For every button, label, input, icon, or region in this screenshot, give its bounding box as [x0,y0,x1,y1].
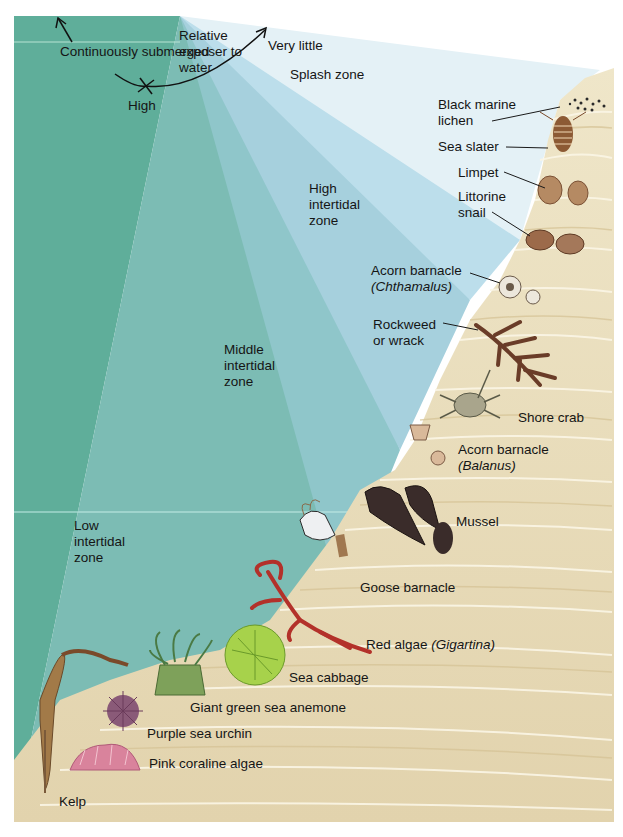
label-red-algae: Red algae (Gigartina) [366,635,495,653]
label-black-marine-lichen: Black marine lichen [438,97,516,129]
label-splash-zone: Splash zone [290,67,364,83]
label-limpet: Limpet [458,165,499,181]
scientific-name: (Gigartina) [431,637,495,652]
label-shore-crab: Shore crab [518,410,584,426]
label-giant-green-sea-anemone: Giant green sea anemone [190,700,346,716]
label-sea-slater: Sea slater [438,139,499,155]
label-pink-coraline-algae: Pink coraline algae [149,756,263,772]
label-kelp: Kelp [59,794,86,810]
label-exposure-axis-title: Relative exposer to water [179,28,259,76]
label-littorine-snail: Littorine snail [458,189,506,221]
label-high-exposure: High [128,98,156,114]
scientific-name: (Balanus) [458,458,549,474]
label-high-intertidal-zone: High intertidal zone [309,181,360,229]
label-goose-barnacle: Goose barnacle [360,580,455,596]
common-name: Acorn barnacle [371,263,462,279]
label-mussel: Mussel [456,514,499,530]
common-name: Acorn barnacle [458,442,549,458]
label-very-little: Very little [268,38,323,54]
label-sea-cabbage: Sea cabbage [289,670,369,686]
label-acorn-barnacle-balanus: Acorn barnacle (Balanus) [458,442,549,474]
sea-cabbage-icon [225,625,285,685]
label-purple-sea-urchin: Purple sea urchin [147,726,252,742]
label-acorn-barnacle-chthamalus: Acorn barnacle (Chthamalus) [371,263,462,295]
intertidal-diagram: Continuously submerged High Relative exp… [0,0,623,837]
common-name: Red algae [366,637,431,652]
label-low-intertidal-zone: Low intertidal zone [74,518,125,566]
scientific-name: (Chthamalus) [371,279,462,295]
label-rockweed: Rockweed or wrack [373,317,436,349]
label-middle-intertidal-zone: Middle intertidal zone [224,342,275,390]
purple-sea-urchin-icon [103,691,143,731]
